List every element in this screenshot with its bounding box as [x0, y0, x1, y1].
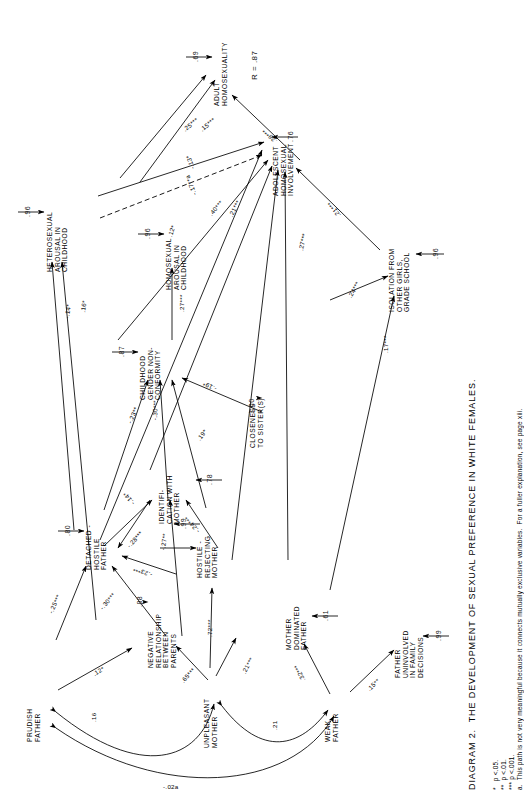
node-weak-father: WEAK FATHER	[324, 713, 339, 742]
node-detached-hostile-father: DETACHED - HOSTILE FATHER	[85, 525, 108, 570]
residual-adolescent-involvement: .76	[287, 131, 294, 142]
residual-gender-nonconformity: .87	[118, 346, 125, 357]
residual-detached-father: .80	[64, 525, 71, 536]
multiple-r-label: R = .87	[250, 50, 259, 80]
residual-heterosexual-arousal: .96	[24, 206, 31, 217]
residual-homosexual-arousal: .96	[144, 228, 151, 239]
coef-correlation-prudish-unpleasant: .16	[91, 712, 98, 722]
node-identification-with-mother: IDENTIFI- CATION WITH MOTHER	[158, 475, 181, 524]
node-isolation-from-other-girls: ISOLATION FROM OTHER GIRLS, GRADE SCHOOL	[388, 248, 411, 312]
residual-father-uninvolved: .99	[435, 630, 442, 641]
residual-mother-dominated: .61	[322, 610, 329, 621]
residual-closeness-sisters: 1.00	[248, 398, 255, 414]
node-heterosexual-arousal-childhood: HETEROSEXUAL AROUSAL IN CHILDHOOD	[46, 212, 69, 272]
coef-gender-to-homosexual-arousal: .27***	[179, 294, 186, 312]
node-adolescent-homosexual-involvement: ADOLESCENT HOMOSEXUAL INVOLVEMENT	[272, 143, 295, 196]
node-mother-dominated-father: MOTHER DOMINATED FATHER	[285, 606, 308, 650]
node-father-uninvolved-in-family-decisions: FATHER UNINVOLVED IN FAMILY DECISIONS	[394, 630, 424, 678]
node-homosexual-arousal-childhood: HOMOSEXUAL AROUSAL IN CHILDHOOD	[165, 238, 188, 290]
residual-negative-relationship: .88	[136, 596, 143, 607]
residual-identification-mother: .78	[206, 474, 213, 485]
node-unpleasant-mother: UNPLEASANT MOTHER	[203, 699, 218, 748]
coef-unpleasant-to-mother-dominated: .72***	[207, 619, 214, 637]
residual-isolation: .96	[432, 248, 439, 259]
coef-correlation-unpleasant-weak: .21	[272, 720, 279, 730]
footnote-path-a: a. This path is not very meaningful beca…	[516, 409, 524, 790]
figure-caption: DIAGRAM 2. THE DEVELOPMENT OF SEXUAL PRE…	[467, 379, 477, 790]
node-negative-relationship-between-parents: NEGATIVE RELATIONSHIP BETWEEN PARENTS	[147, 614, 177, 668]
footnote-p05: * p <.05.	[492, 760, 500, 790]
footnote-p001: *** p <.001.	[508, 754, 516, 790]
footnote-p01: ** p <.01.	[500, 759, 508, 790]
coef-identification-to-gender: -.30***	[152, 400, 159, 420]
node-hostile-rejecting-mother: HOSTILE - REJECTING MOTHER	[196, 536, 219, 578]
node-adult-homosexuality: ADULT HOMOSEXUALITY	[213, 42, 228, 106]
coef-mother-dominated-to-isolation: .17***	[383, 335, 390, 353]
node-childhood-gender-nonconformity: CHILDHOOD GENDER NON- CONFORMITY	[139, 347, 162, 400]
residual-adult-homosexuality: .69	[192, 51, 199, 62]
coef-correlation-prudish-weak: -.02a	[163, 784, 179, 791]
node-prudish-father: PRUDISH FATHER	[26, 708, 41, 742]
